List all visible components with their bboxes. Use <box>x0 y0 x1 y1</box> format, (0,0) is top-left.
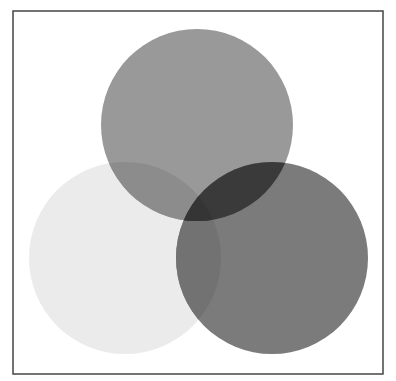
venn-diagram <box>0 0 396 381</box>
